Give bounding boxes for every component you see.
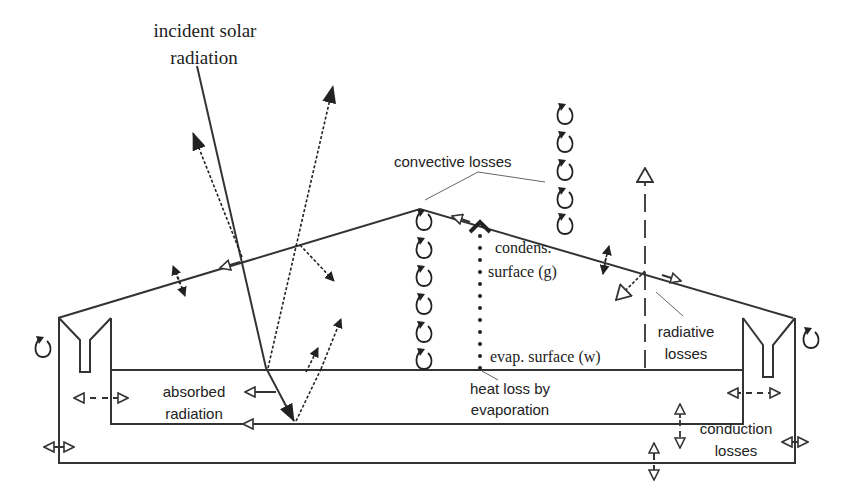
conduction-label-1: conduction — [700, 420, 773, 437]
convective-label: convective losses — [394, 153, 512, 170]
solar-still-diagram: incident solar radiation convective loss… — [0, 0, 849, 494]
absorbed-label-2: radiation — [165, 405, 223, 422]
incident-label-1: incident solar — [154, 20, 258, 41]
glass-conduction-right — [603, 246, 609, 274]
conduction-label-2: losses — [715, 442, 758, 459]
reflected-from-water — [268, 86, 333, 368]
radiative-back-arrow — [616, 271, 645, 300]
heat-loss-label-2: evaporation — [471, 401, 549, 418]
evaporation-dots — [470, 222, 490, 368]
convection-eddies-inside — [417, 209, 432, 369]
radiative-label-2: losses — [665, 345, 708, 362]
heat-loss-label-1: heat loss by — [470, 380, 551, 397]
refracted-at-glass — [300, 245, 334, 281]
radiative-leader — [656, 292, 683, 316]
gutter-left — [59, 318, 111, 372]
eddy-left-wall — [36, 336, 51, 357]
condens-label-2: surface (g) — [488, 263, 557, 281]
absorbed-label-1: absorbed — [163, 383, 226, 400]
incident-label-2: radiation — [170, 47, 238, 68]
incident-radiation-arrow — [197, 66, 294, 421]
condens-label-1: condens. — [495, 239, 551, 256]
gutter-right — [743, 318, 795, 377]
convective-leader-lines — [425, 172, 545, 200]
radiative-label-1: radiative — [658, 323, 715, 340]
convection-eddies-outside — [558, 103, 573, 234]
heat-loss-leader — [482, 371, 498, 380]
eddy-right-wall — [804, 327, 819, 348]
glass-cover — [58, 209, 793, 318]
evap-surface-label: evap. surface (w) — [490, 348, 601, 366]
